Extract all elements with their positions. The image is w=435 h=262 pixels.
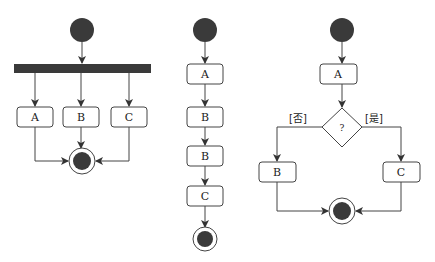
- guard-no: [否]: [289, 113, 307, 124]
- start-node: [70, 18, 94, 42]
- label-c: C: [201, 190, 209, 203]
- activity-diagrams: A B C A B B C A ? B C [否] [是]: [0, 0, 435, 262]
- guard-yes: [是]: [365, 113, 383, 124]
- start-node: [193, 18, 217, 42]
- label-a: A: [200, 68, 210, 81]
- label-b: B: [77, 111, 85, 124]
- label-a: A: [333, 68, 343, 81]
- label-c: C: [397, 166, 405, 179]
- label-b2: B: [201, 150, 209, 163]
- label-b1: B: [201, 111, 209, 124]
- fork-bar: [14, 64, 151, 73]
- diagram-parallel-fork: [14, 18, 151, 174]
- decision-label: ?: [340, 123, 345, 133]
- label-c: C: [125, 111, 133, 124]
- start-node: [330, 18, 354, 42]
- diagram-decision: [259, 18, 420, 224]
- label-b: B: [273, 166, 281, 179]
- diagram-sequential: [187, 18, 223, 251]
- label-a: A: [30, 111, 40, 124]
